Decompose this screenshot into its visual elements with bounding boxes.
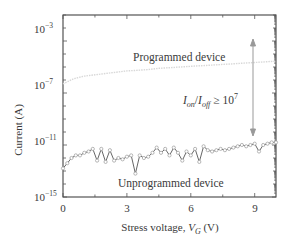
svg-text:0: 0	[60, 202, 66, 214]
svg-text:6: 6	[188, 202, 194, 214]
unprogrammed-device-label: Unprogrammed device	[118, 177, 224, 190]
svg-text:10−7: 10−7	[34, 77, 53, 91]
svg-text:10−11: 10−11	[34, 133, 57, 147]
svg-text:10−3: 10−3	[34, 21, 53, 35]
on-off-ratio-label: Ion/Ioff ≥ 107	[182, 92, 238, 109]
x-axis-label: Stress voltage, VG (V)	[121, 221, 219, 236]
programmed-device-curve	[63, 61, 276, 84]
svg-text:3: 3	[124, 202, 130, 214]
svg-text:9: 9	[252, 202, 258, 214]
axis-ticks	[63, 15, 276, 197]
y-axis-label: Current (A)	[12, 104, 25, 156]
y-axis-tick-labels: 10−3 10−7 10−11 10−15	[34, 21, 57, 203]
chart: Programmed device Unprogrammed device Io…	[0, 0, 291, 249]
programmed-device-label: Programmed device	[133, 51, 225, 64]
plot-frame	[63, 15, 276, 197]
unprogrammed-device-markers	[61, 141, 277, 175]
unprogrammed-device-curve	[63, 142, 276, 173]
x-axis-tick-labels: 0 3 6 9	[60, 202, 258, 214]
svg-text:10−15: 10−15	[34, 189, 57, 203]
ratio-double-arrow	[251, 39, 256, 136]
